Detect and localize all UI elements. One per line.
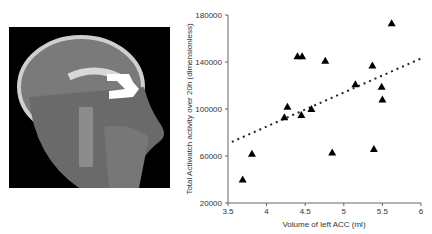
data-point-triangle xyxy=(351,80,359,87)
x-tick-label: 5.5 xyxy=(377,207,389,216)
data-point-triangle xyxy=(378,96,386,103)
y-tick-label: 20000 xyxy=(200,199,223,208)
x-tick-label: 3.5 xyxy=(222,207,234,216)
data-point-triangle xyxy=(307,105,315,112)
y-tick-label: 100000 xyxy=(195,105,222,114)
data-point-triangle xyxy=(283,103,291,110)
x-axis-label: Volume of left ACC (ml) xyxy=(282,220,365,229)
y-axis-label: Total Actiwatch activity over 20h (dimen… xyxy=(185,23,194,195)
data-point-triangle xyxy=(388,19,396,26)
y-tick-label: 60000 xyxy=(200,152,223,161)
trend-line xyxy=(232,58,421,141)
data-point-triangle xyxy=(321,57,329,64)
scatter-chart: 20000600001000001400001800003.544.555.56… xyxy=(0,0,432,234)
data-point-triangle xyxy=(368,62,376,69)
y-tick-label: 140000 xyxy=(195,58,222,67)
x-tick-label: 4.5 xyxy=(300,207,312,216)
data-point-triangle xyxy=(248,150,256,157)
x-tick-label: 6 xyxy=(419,207,424,216)
data-point-triangle xyxy=(370,145,378,152)
x-tick-label: 4 xyxy=(264,207,269,216)
data-point-triangle xyxy=(378,83,386,90)
x-tick-label: 5 xyxy=(342,207,347,216)
data-point-triangle xyxy=(239,176,247,183)
data-point-triangle xyxy=(328,148,336,155)
y-tick-label: 180000 xyxy=(195,11,222,20)
